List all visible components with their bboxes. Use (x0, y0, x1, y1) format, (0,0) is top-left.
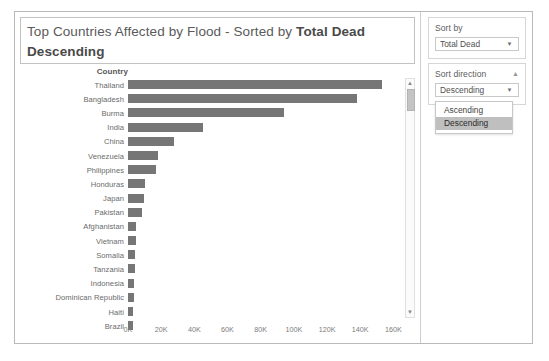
chevron-down-icon[interactable]: ▼ (504, 38, 515, 50)
bar-track (128, 121, 415, 135)
bar-category-label: Thailand (20, 81, 128, 90)
bar-track (128, 262, 415, 276)
bar-row: Japan (20, 192, 415, 206)
bar-row: Thailand (20, 78, 415, 92)
bar-row: Venezuela (20, 149, 415, 163)
chart-title: Top Countries Affected by Flood - Sorted… (20, 17, 415, 64)
sort-direction-card: ▲ Sort direction Descending ▼ AscendingD… (428, 63, 526, 105)
bar-rows: ThailandBangladeshBurmaIndiaChinaVenezue… (20, 78, 415, 306)
bar-track (128, 192, 415, 206)
sort-by-value: Total Dead (440, 39, 480, 49)
bar-category-label: Somalia (20, 251, 128, 260)
bar-row: Dominican Republic (20, 291, 415, 305)
bar-category-label: Haiti (20, 308, 128, 317)
x-axis-tick: 120K (319, 325, 336, 334)
chart-panel: Top Countries Affected by Flood - Sorted… (15, 12, 421, 343)
bar[interactable] (128, 222, 136, 231)
sort-by-label: Sort by (435, 23, 519, 33)
x-axis-tick: 0K (124, 325, 133, 334)
controls-panel: Sort by Total Dead ▼ ▲ Sort direction De… (421, 12, 532, 343)
bar-track (128, 163, 415, 177)
bar-row: Afghanistan (20, 220, 415, 234)
bar-row: Somalia (20, 248, 415, 262)
chevron-up-icon[interactable]: ▲ (512, 69, 519, 78)
bar-track (128, 92, 415, 106)
chart-vertical-scrollbar[interactable]: ▲ ▼ (405, 78, 415, 318)
bar-category-label: China (20, 137, 128, 146)
bar[interactable] (128, 250, 135, 259)
bar-category-label: Philippines (20, 166, 128, 175)
x-axis: 0K20K40K60K80K100K120K140K160K (128, 325, 403, 337)
dashboard-container: Top Countries Affected by Flood - Sorted… (14, 11, 533, 344)
bar[interactable] (128, 80, 382, 89)
bar-track (128, 78, 415, 92)
x-axis-tick: 20K (155, 325, 168, 334)
sort-direction-label: Sort direction (435, 69, 519, 79)
bar[interactable] (128, 279, 134, 288)
bar[interactable] (128, 165, 156, 174)
bar-row: Tanzania (20, 262, 415, 276)
x-axis-tick: 140K (352, 325, 369, 334)
y-axis-header: Country (20, 67, 128, 76)
bar-category-label: Venezuela (20, 152, 128, 161)
sort-direction-option[interactable]: Descending (436, 117, 512, 130)
x-axis-tick: 100K (285, 325, 302, 334)
scrollbar-thumb[interactable] (407, 89, 415, 111)
sort-direction-dropdown[interactable]: AscendingDescending (435, 101, 513, 134)
x-axis-tick: 160K (385, 325, 402, 334)
bar-track (128, 149, 415, 163)
sort-by-select[interactable]: Total Dead ▼ (435, 37, 519, 51)
bar-row: Pakistan (20, 206, 415, 220)
bar-track (128, 277, 415, 291)
bar-track (128, 220, 415, 234)
bar[interactable] (128, 137, 174, 146)
bar-category-label: Afghanistan (20, 222, 128, 231)
bar-track (128, 135, 415, 149)
bar[interactable] (128, 108, 284, 117)
bar[interactable] (128, 307, 133, 316)
bar[interactable] (128, 94, 357, 103)
bar-row: Philippines (20, 163, 415, 177)
plot-area: Country ThailandBangladeshBurmaIndiaChin… (20, 67, 415, 339)
bar-category-label: India (20, 123, 128, 132)
sort-direction-select[interactable]: Descending ▼ (435, 83, 519, 97)
bar[interactable] (128, 123, 203, 132)
sort-by-card: Sort by Total Dead ▼ (428, 17, 526, 59)
bar-row: Vietnam (20, 234, 415, 248)
bar-row: India (20, 121, 415, 135)
sort-direction-option[interactable]: Ascending (436, 104, 512, 117)
bar[interactable] (128, 293, 134, 302)
bar-category-label: Vietnam (20, 237, 128, 246)
chart-title-prefix: Top Countries Affected by Flood - Sorted… (27, 24, 296, 39)
bar[interactable] (128, 208, 142, 217)
bar-row: Honduras (20, 177, 415, 191)
bar-category-label: Honduras (20, 180, 128, 189)
bar-category-label: Dominican Republic (20, 293, 128, 302)
bar-category-label: Indonesia (20, 279, 128, 288)
sort-direction-value: Descending (440, 85, 484, 95)
scroll-up-icon[interactable]: ▲ (406, 79, 414, 88)
bar-category-label: Burma (20, 109, 128, 118)
bar-row: Haiti (20, 305, 415, 319)
bar-row: Bangladesh (20, 92, 415, 106)
bar-track (128, 248, 415, 262)
bar[interactable] (128, 194, 144, 203)
bar-track (128, 177, 415, 191)
bar-track (128, 291, 415, 305)
bar[interactable] (128, 236, 136, 245)
bar-category-label: Brazil (20, 322, 128, 331)
x-axis-tick: 80K (254, 325, 267, 334)
bar-track (128, 106, 415, 120)
x-axis-tick: 60K (221, 325, 234, 334)
bar-track (128, 234, 415, 248)
bar-row: Burma (20, 106, 415, 120)
chevron-down-icon[interactable]: ▼ (504, 84, 515, 96)
bar-category-label: Pakistan (20, 208, 128, 217)
bar-category-label: Japan (20, 194, 128, 203)
bar[interactable] (128, 179, 145, 188)
bar-track (128, 305, 415, 319)
scroll-down-icon[interactable]: ▼ (406, 308, 414, 317)
bar[interactable] (128, 151, 158, 160)
bar[interactable] (128, 264, 135, 273)
bar-category-label: Tanzania (20, 265, 128, 274)
